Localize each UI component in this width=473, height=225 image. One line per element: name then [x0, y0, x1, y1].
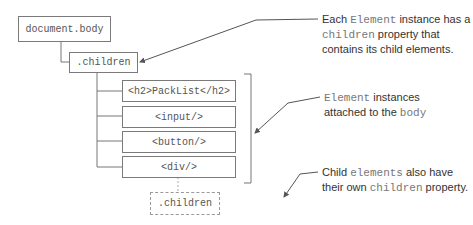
children-node: .children	[69, 52, 138, 73]
note-code: children	[370, 182, 423, 194]
annotation-element-instances: Element instances attached to the body	[324, 90, 473, 120]
note-text: Child	[322, 166, 350, 178]
note-code: children	[322, 29, 375, 41]
annotation-child-elements: Child elements also have their own child…	[322, 165, 473, 195]
input-element-node: <input/>	[122, 106, 236, 128]
note-code: Element	[350, 14, 396, 26]
annotation-element-children: Each Element instance has a children pro…	[322, 12, 472, 56]
note-text: contains its child elements.	[322, 43, 453, 55]
note-text: property that	[375, 28, 440, 40]
note-code: elements	[350, 167, 403, 179]
note-code: body	[400, 107, 426, 119]
note-text: attached to the	[324, 106, 400, 118]
document-body-node: document.body	[18, 16, 111, 42]
div-element-node: <div/>	[122, 156, 236, 178]
note-text: their own	[322, 181, 370, 193]
note-text: Each	[322, 13, 350, 25]
button-element-node: <button/>	[122, 131, 236, 153]
note-text: instances	[370, 91, 420, 103]
h2-element-node: <h2>PackList</h2>	[122, 80, 236, 102]
note-text: instance has a	[396, 13, 470, 25]
div-children-node: .children	[150, 192, 220, 215]
note-text: also have	[403, 166, 453, 178]
note-code: Element	[324, 92, 370, 104]
note-text: property.	[423, 181, 469, 193]
